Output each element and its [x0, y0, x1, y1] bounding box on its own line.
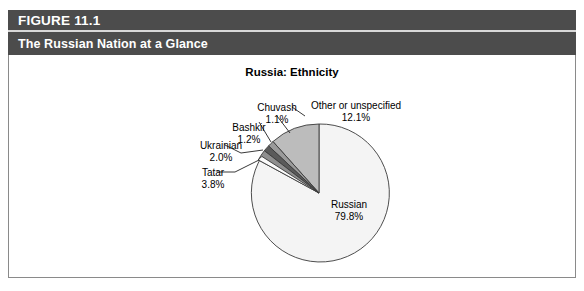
figure-subtitle-label: The Russian Nation at a Glance: [18, 37, 208, 51]
chart-area: Russia: Ethnicity Other or unspecified 1…: [9, 56, 575, 277]
pie-label-chuvash-name: Chuvash: [257, 102, 296, 113]
pie-label-ukrainian-percent: 2.0%: [210, 152, 233, 163]
pie-label-ukrainian-name: Ukrainian: [200, 140, 242, 151]
pie-label-chuvash-percent: 1.1%: [266, 114, 289, 125]
pie-label-tatar: Tatar 3.8%: [202, 167, 225, 190]
pie-label-russian: Russian 79.8%: [331, 199, 367, 222]
pie-label-other-percent: 12.1%: [342, 112, 370, 123]
pie-slices: [251, 124, 389, 262]
pie-label-russian-name: Russian: [331, 199, 367, 210]
pie-label-bashkir-name: Bashkir: [232, 122, 266, 133]
figure-subtitle-band: The Russian Nation at a Glance: [8, 32, 576, 55]
pie-label-other-or-unspecified: Other or unspecified 12.1%: [311, 100, 401, 123]
pie-chart: Other or unspecified 12.1% Chuvash 1.1% …: [9, 56, 575, 277]
pie-label-tatar-name: Tatar: [202, 167, 225, 178]
pie-label-tatar-percent: 3.8%: [202, 179, 225, 190]
pie-label-russian-percent: 79.8%: [335, 211, 363, 222]
pie-label-ukrainian: Ukrainian 2.0%: [200, 140, 242, 163]
figure-header: FIGURE 11.1 The Russian Nation at a Glan…: [8, 10, 576, 55]
figure-number-label: FIGURE 11.1: [18, 13, 100, 28]
figure-number-band: FIGURE 11.1: [8, 10, 576, 30]
pie-label-other-name: Other or unspecified: [311, 100, 401, 111]
